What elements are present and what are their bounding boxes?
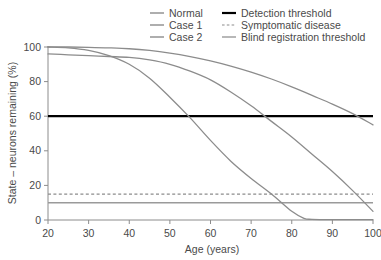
legend-label: Symptomatic disease [241, 19, 341, 31]
threshold-lines [48, 116, 373, 203]
x-tick-label: 70 [245, 227, 257, 239]
x-tick-label: 60 [205, 227, 217, 239]
x-tick-label: 20 [42, 227, 54, 239]
legend-item-detection-threshold[interactable]: Detection threshold [222, 7, 332, 19]
series-line-case-1 [48, 54, 373, 211]
x-axis-title: Age (years) [185, 243, 239, 255]
x-tick-label: 30 [83, 227, 95, 239]
y-tick-label: 40 [29, 144, 41, 156]
x-tick-label: 80 [286, 227, 298, 239]
legend-label: Detection threshold [241, 7, 332, 19]
legend-label: Blind registration threshold [241, 31, 365, 43]
legend-item-normal[interactable]: Normal [150, 7, 203, 19]
y-axis-title: State – neurons remaining (%) [6, 62, 18, 204]
line-chart: NormalCase 1Case 2Detection thresholdSym… [0, 0, 381, 260]
series-line-normal [48, 47, 373, 125]
chart-tick-labels: 0204060801002030405060708090100 [23, 41, 381, 239]
y-tick-label: 60 [29, 110, 41, 122]
y-tick-label: 80 [29, 75, 41, 87]
legend-label: Case 2 [169, 31, 202, 43]
x-tick-label: 50 [164, 227, 176, 239]
legend-item-blind-registration-threshold[interactable]: Blind registration threshold [222, 31, 365, 43]
chart-container: NormalCase 1Case 2Detection thresholdSym… [0, 0, 381, 260]
chart-axes [44, 46, 373, 224]
x-tick-label: 90 [327, 227, 339, 239]
y-tick-label: 100 [23, 41, 41, 53]
legend-label: Case 1 [169, 19, 202, 31]
chart-legend: NormalCase 1Case 2Detection thresholdSym… [150, 7, 365, 43]
y-tick-label: 20 [29, 179, 41, 191]
legend-label: Normal [169, 7, 203, 19]
x-tick-label: 100 [364, 227, 381, 239]
y-tick-label: 0 [35, 214, 41, 226]
x-tick-label: 40 [123, 227, 135, 239]
legend-item-symptomatic-disease[interactable]: Symptomatic disease [222, 19, 341, 31]
legend-item-case-1[interactable]: Case 1 [150, 19, 202, 31]
legend-item-case-2[interactable]: Case 2 [150, 31, 202, 43]
